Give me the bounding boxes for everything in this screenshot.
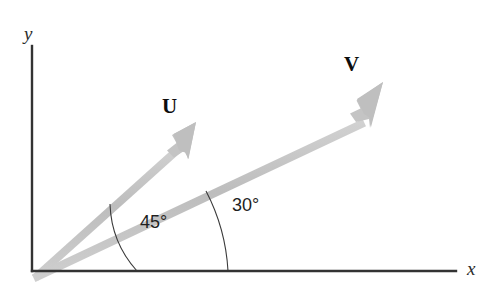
vector-u xyxy=(32,122,196,281)
vector-v xyxy=(32,82,383,282)
vector-u-label: U xyxy=(162,96,177,117)
angle-arc-30 xyxy=(206,191,228,271)
angle-label-30: 30° xyxy=(232,196,259,214)
x-axis-label: x xyxy=(467,259,475,278)
diagram-svg xyxy=(0,0,498,288)
angle-label-45: 45° xyxy=(140,213,167,231)
vector-v-label: V xyxy=(344,54,359,75)
y-axis-label: y xyxy=(24,24,32,43)
vector-diagram-canvas: y x U V 45° 30° xyxy=(0,0,498,288)
